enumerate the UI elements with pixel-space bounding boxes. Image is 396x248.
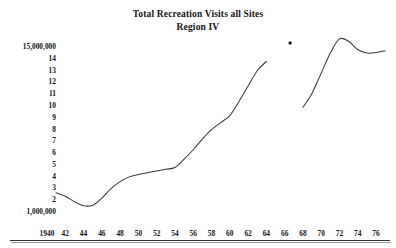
plot-area (0, 0, 396, 248)
annotation-markers (288, 41, 291, 44)
annotation-point-marker (288, 41, 291, 44)
x-axis-line (10, 240, 390, 241)
chart-container: Total Recreation Visits all Sites Region… (0, 0, 396, 248)
series-line-2 (303, 38, 385, 107)
series-line-1 (56, 61, 266, 206)
x-axis-line-shadow (11, 242, 391, 243)
